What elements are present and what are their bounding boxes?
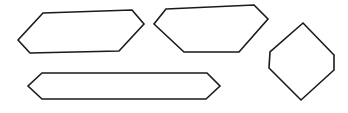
hexagon-top-left: [18, 10, 144, 53]
hexagon-right-vertical: [269, 23, 334, 100]
hexagon-top-middle: [154, 5, 268, 52]
shapes-canvas: [0, 0, 348, 113]
hexagon-bottom-elongated: [28, 73, 220, 99]
